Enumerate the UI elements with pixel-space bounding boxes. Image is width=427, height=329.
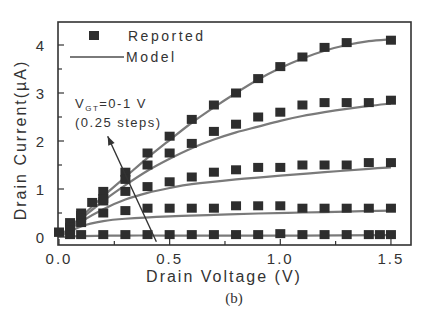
reported-marker <box>165 204 175 213</box>
reported-marker <box>143 149 153 158</box>
figure-caption: (b) <box>225 290 243 307</box>
reported-marker <box>87 198 97 207</box>
reported-marker <box>165 177 175 186</box>
y-tick-label: 2 <box>36 133 46 150</box>
model-curve <box>59 235 391 237</box>
reported-marker <box>275 163 285 172</box>
reported-marker <box>76 230 86 239</box>
y-tick-label: 4 <box>36 37 46 54</box>
reported-marker <box>275 62 285 71</box>
legend-label-model: Model <box>126 49 177 65</box>
reported-marker <box>143 204 153 213</box>
x-tick-label: 0.0 <box>46 250 73 267</box>
reported-marker <box>342 204 352 213</box>
reported-marker <box>342 230 352 239</box>
reported-marker <box>120 206 130 215</box>
arrow-head-icon <box>108 136 115 146</box>
reported-marker <box>275 201 285 210</box>
reported-marker <box>342 161 352 170</box>
reported-marker <box>209 230 219 239</box>
reported-marker <box>386 230 396 239</box>
reported-marker <box>65 230 75 239</box>
reported-marker <box>320 204 330 213</box>
reported-marker <box>253 113 263 122</box>
reported-marker <box>165 132 175 141</box>
vgt-steps-text: (0.25 steps) <box>75 115 162 130</box>
reported-marker <box>275 108 285 117</box>
reported-marker <box>143 161 153 170</box>
legend-marker-reported <box>89 31 99 40</box>
reported-marker <box>297 53 307 62</box>
reported-marker <box>209 204 219 213</box>
reported-marker <box>386 36 396 45</box>
reported-marker <box>386 96 396 105</box>
reported-marker <box>297 204 307 213</box>
reported-marker <box>275 229 285 238</box>
reported-marker <box>76 218 86 227</box>
reported-marker <box>187 173 197 182</box>
reported-marker <box>98 230 108 239</box>
y-axis-title: Drain Current(µA) <box>12 60 29 221</box>
reported-marker <box>375 230 385 239</box>
model-curve <box>59 167 391 237</box>
reported-marker <box>364 204 374 213</box>
reported-marker <box>120 187 130 196</box>
y-tick-label: 0 <box>36 229 46 246</box>
reported-marker <box>364 230 374 239</box>
reported-marker <box>342 98 352 107</box>
model-curve <box>59 211 391 237</box>
reported-marker <box>209 101 219 110</box>
x-tick-label: 1.0 <box>267 250 294 267</box>
reported-marker <box>165 230 175 239</box>
reported-marker <box>54 228 64 237</box>
reported-marker <box>320 98 330 107</box>
reported-marker <box>364 98 374 107</box>
x-axis-title: Drain Voltage (V) <box>146 268 302 285</box>
reported-marker <box>386 158 396 167</box>
vgt-annotation: VGT=0-1 V (0.25 steps) <box>75 96 162 130</box>
reported-marker <box>231 120 241 129</box>
legend: Reported Model <box>70 28 206 65</box>
reported-marker <box>231 201 241 210</box>
reported-marker <box>364 158 374 167</box>
reported-marker <box>209 127 219 136</box>
reported-marker <box>187 115 197 124</box>
y-tick-label: 1 <box>36 181 46 198</box>
reported-marker <box>297 161 307 170</box>
reported-marker <box>253 74 263 83</box>
reported-marker <box>120 230 130 239</box>
reported-marker <box>231 230 241 239</box>
reported-marker <box>253 230 263 239</box>
drain-current-chart: 0.00.51.01.501234 Reported Model VGT=0-1… <box>0 0 427 329</box>
reported-marker <box>187 230 197 239</box>
legend-label-reported: Reported <box>128 28 206 44</box>
y-tick-label: 3 <box>36 85 46 102</box>
reported-marker <box>253 201 263 210</box>
x-tick-label: 0.5 <box>156 250 183 267</box>
reported-marker <box>187 204 197 213</box>
reported-marker <box>320 161 330 170</box>
reported-markers <box>54 36 396 239</box>
reported-marker <box>320 230 330 239</box>
reported-marker <box>297 230 307 239</box>
reported-marker <box>386 204 396 213</box>
reported-marker <box>143 182 153 191</box>
reported-marker <box>165 149 175 158</box>
reported-marker <box>231 165 241 174</box>
reported-marker <box>209 168 219 177</box>
x-tick-label: 1.5 <box>378 250 405 267</box>
reported-marker <box>297 101 307 110</box>
reported-marker <box>98 209 108 218</box>
reported-marker <box>342 38 352 47</box>
reported-marker <box>98 197 108 206</box>
reported-marker <box>231 89 241 98</box>
reported-marker <box>187 139 197 148</box>
reported-marker <box>253 163 263 172</box>
vgt-range-text: VGT=0-1 V <box>75 96 147 113</box>
reported-marker <box>320 43 330 52</box>
